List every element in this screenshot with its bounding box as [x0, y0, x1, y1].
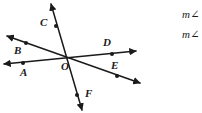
point-dot-C	[54, 24, 58, 28]
point-dot-F	[75, 93, 79, 97]
vertex-label-O: O	[61, 61, 69, 72]
point-dot-E	[115, 74, 119, 78]
point-label-E: E	[111, 60, 118, 71]
point-label-D: D	[103, 37, 111, 48]
point-label-C: C	[40, 17, 47, 28]
point-dot-B	[24, 41, 28, 45]
geometry-figure: C B A D E F O m∠ m∠	[0, 0, 202, 113]
ray-diagram	[0, 0, 150, 113]
point-label-B: B	[14, 45, 21, 56]
angle-measure-equations: m∠ m∠	[182, 4, 202, 48]
point-dot-A	[21, 61, 25, 65]
angle-measure-line-2: m∠	[182, 24, 202, 44]
point-label-A: A	[20, 67, 27, 78]
point-label-F: F	[85, 88, 92, 99]
point-dot-D	[110, 52, 114, 56]
angle-measure-line-1: m∠	[182, 4, 202, 24]
